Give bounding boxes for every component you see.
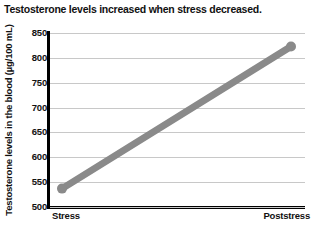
chart-title: Testosterone levels increased when stres… xyxy=(4,3,312,15)
y-axis-tick-label: 650 xyxy=(17,127,47,137)
data-point-poststress xyxy=(286,41,296,51)
x-axis-tick-label-stress: Stress xyxy=(52,210,80,221)
y-axis-title-container: Testosterone levels in the blood (µg/100… xyxy=(0,30,16,210)
x-axis-tick-label-poststress: Poststress xyxy=(263,210,310,221)
y-axis-tick-label: 500 xyxy=(17,202,47,212)
line-segment xyxy=(62,46,291,188)
chart-figure: Testosterone levels increased when stres… xyxy=(0,0,316,237)
y-axis-tick-label: 800 xyxy=(17,53,47,63)
y-axis-tick-label: 700 xyxy=(17,103,47,113)
gridline xyxy=(50,207,305,208)
series-line-testosterone xyxy=(50,33,305,207)
y-axis-tick-label: 850 xyxy=(17,28,47,38)
y-axis-title: Testosterone levels in the blood (µg/100… xyxy=(3,24,14,215)
y-axis-tick-label: 550 xyxy=(17,177,47,187)
plot-area xyxy=(50,33,305,207)
y-axis-tick-labels: 850800750700650600550500 xyxy=(16,0,47,237)
data-point-stress xyxy=(57,184,67,194)
y-axis-tick-label: 600 xyxy=(17,152,47,162)
y-axis-tick-label: 750 xyxy=(17,78,47,88)
